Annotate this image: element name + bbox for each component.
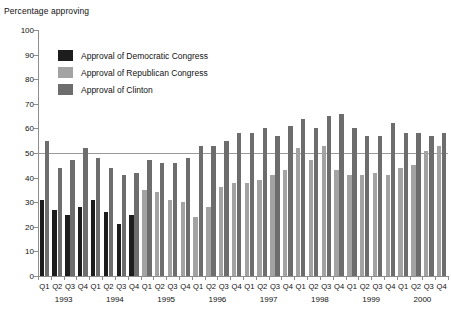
x-axis-quarter-label: Q4 <box>437 282 447 291</box>
x-axis-quarter-label: Q4 <box>129 282 139 291</box>
bar-republican-congress <box>283 170 287 276</box>
bar-clinton <box>327 116 331 276</box>
bar-clinton <box>288 126 292 276</box>
x-axis-tick-mark <box>397 276 398 280</box>
y-axis-tick-label: 80 <box>12 75 34 84</box>
y-axis-tick-label: 0 <box>12 272 34 281</box>
y-axis-tick-label: 50 <box>12 149 34 158</box>
y-axis-tick-label: 100 <box>12 26 34 35</box>
bar-republican-congress <box>181 202 185 276</box>
y-axis-tick-mark <box>34 227 38 228</box>
bar-clinton <box>352 128 356 276</box>
bar-clinton <box>314 128 318 276</box>
y-axis-tick-mark <box>34 128 38 129</box>
bar-clinton <box>134 173 138 276</box>
y-axis-tick-label: 10 <box>12 247 34 256</box>
bar-clinton <box>416 133 420 276</box>
x-axis-year-label: 1993 <box>55 295 73 304</box>
bar-clinton <box>301 119 305 276</box>
bar-clinton <box>404 133 408 276</box>
bar-republican-congress <box>193 217 197 276</box>
y-axis-tick-mark <box>34 251 38 252</box>
y-axis-tick-mark <box>34 178 38 179</box>
x-axis-tick-mark <box>307 276 308 280</box>
x-axis-quarter-label: Q1 <box>91 282 101 291</box>
bar-republican-congress <box>155 192 159 276</box>
bar-clinton <box>378 136 382 276</box>
bar-republican-congress <box>411 165 415 276</box>
bar-clinton <box>109 168 113 276</box>
x-axis-quarter-label: Q4 <box>385 282 395 291</box>
bar-clinton <box>83 148 87 276</box>
x-axis-tick-mark <box>51 276 52 280</box>
bar-clinton <box>173 163 177 276</box>
x-axis-tick-mark <box>76 276 77 280</box>
reference-line-50 <box>38 153 448 154</box>
x-axis-quarter-label: Q1 <box>39 282 49 291</box>
x-axis-tick-mark <box>281 276 282 280</box>
bar-democratic-congress <box>129 215 133 277</box>
y-axis-tick-label: 60 <box>12 124 34 133</box>
x-axis-tick-mark <box>410 276 411 280</box>
y-axis-tick-mark <box>34 202 38 203</box>
x-axis-tick-mark <box>166 276 167 280</box>
x-axis-tick-mark <box>217 276 218 280</box>
x-axis-tick-mark <box>205 276 206 280</box>
x-axis-quarter-label: Q2 <box>308 282 318 291</box>
bar-clinton <box>160 163 164 276</box>
x-axis-quarter-label: Q3 <box>372 282 382 291</box>
bar-clinton <box>391 123 395 276</box>
x-axis-tick-mark <box>115 276 116 280</box>
bar-clinton <box>237 133 241 276</box>
legend-label: Approval of Democratic Congress <box>81 51 208 61</box>
x-axis-year-label: 1994 <box>106 295 124 304</box>
x-axis-tick-mark <box>346 276 347 280</box>
bar-democratic-congress <box>78 207 82 276</box>
y-axis-tick-label: 70 <box>12 99 34 108</box>
bar-clinton <box>45 141 49 276</box>
x-axis-year-label: 1998 <box>311 295 329 304</box>
bar-democratic-congress <box>91 200 95 276</box>
x-axis-tick-mark <box>179 276 180 280</box>
bar-republican-congress <box>309 160 313 276</box>
x-axis-year-label: 1997 <box>260 295 278 304</box>
bar-republican-congress <box>142 190 146 276</box>
bar-democratic-congress <box>40 200 44 276</box>
legend-item: Approval of Clinton <box>58 81 208 98</box>
x-axis-quarter-label: Q1 <box>244 282 254 291</box>
x-axis-quarter-label: Q1 <box>193 282 203 291</box>
x-axis-tick-mark <box>448 276 449 280</box>
bar-democratic-congress <box>52 210 56 276</box>
bar-clinton <box>58 168 62 276</box>
chart-container: Percentage approving 0102030405060708090… <box>0 0 451 317</box>
bar-clinton <box>122 175 126 276</box>
chart-legend: Approval of Democratic CongressApproval … <box>58 47 208 98</box>
legend-swatch-icon <box>58 67 73 78</box>
bar-republican-congress <box>322 146 326 276</box>
y-axis-tick-label: 40 <box>12 173 34 182</box>
x-axis-tick-mark <box>230 276 231 280</box>
x-axis-quarter-label: Q2 <box>52 282 62 291</box>
x-axis-quarter-label: Q2 <box>411 282 421 291</box>
bar-republican-congress <box>334 170 338 276</box>
x-axis-quarter-label: Q3 <box>65 282 75 291</box>
x-axis-tick-mark <box>38 276 39 280</box>
bar-republican-congress <box>257 180 261 276</box>
x-axis-quarter-label: Q2 <box>103 282 113 291</box>
y-axis-tick-mark <box>34 104 38 105</box>
legend-swatch-icon <box>58 50 73 61</box>
bar-clinton <box>211 146 215 276</box>
bar-republican-congress <box>219 187 223 276</box>
x-axis-year-label: 1999 <box>362 295 380 304</box>
x-axis-quarter-label: Q3 <box>424 282 434 291</box>
legend-item: Approval of Democratic Congress <box>58 47 208 64</box>
x-axis-quarter-label: Q2 <box>257 282 267 291</box>
bar-republican-congress <box>386 175 390 276</box>
x-axis-tick-mark <box>358 276 359 280</box>
x-axis-quarter-label: Q3 <box>116 282 126 291</box>
bar-clinton <box>429 136 433 276</box>
y-axis-tick-mark <box>34 55 38 56</box>
legend-swatch-icon <box>58 84 73 95</box>
bar-republican-congress <box>168 200 172 276</box>
bar-democratic-congress <box>65 215 69 277</box>
